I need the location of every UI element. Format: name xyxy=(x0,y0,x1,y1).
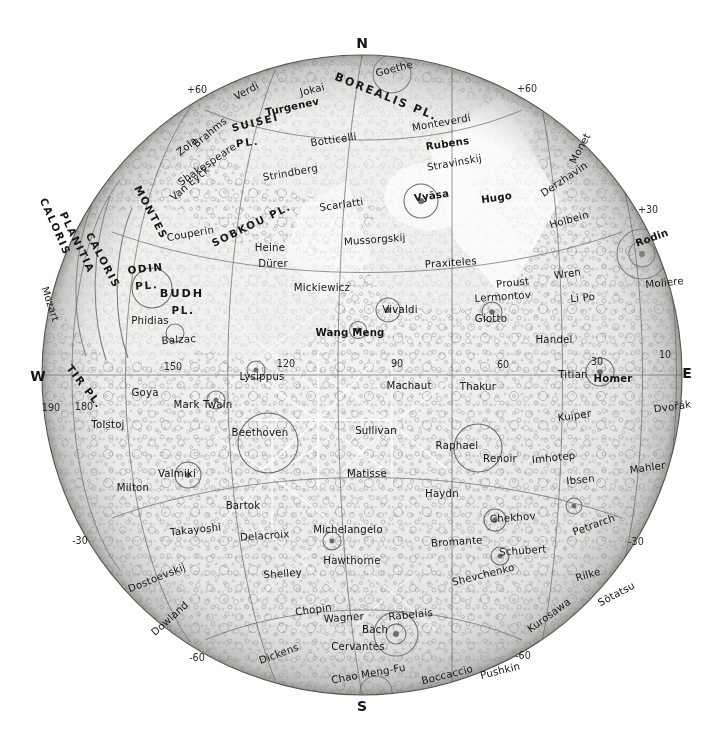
longitude-label: 190 xyxy=(42,402,60,413)
crater-label: Goya xyxy=(131,387,158,398)
mercury-map-figure: NSWE +60+60+30-30-30-60-60 1901801501209… xyxy=(0,0,715,750)
crater-label: Cervantes xyxy=(331,641,385,652)
latitude-label: +60 xyxy=(517,83,537,94)
crater-label: Michelangelo xyxy=(313,524,383,535)
latitude-label: -60 xyxy=(189,652,205,663)
crater-label: Machaut xyxy=(386,380,431,391)
region-label: BUDH xyxy=(160,287,204,300)
longitude-label: 120 xyxy=(277,358,295,369)
crater-label: Handel xyxy=(535,334,572,345)
crater-label: Haydn xyxy=(425,488,459,499)
longitude-label: 150 xyxy=(164,361,182,372)
latitude-label: -30 xyxy=(628,536,644,547)
crater-label: Titian xyxy=(557,369,587,380)
latitude-label: +60 xyxy=(187,84,207,95)
crater-label: Homer xyxy=(593,373,632,384)
longitude-label: 10 xyxy=(659,349,671,360)
crater-label: Beethoven xyxy=(232,427,289,438)
crater-label: Dürer xyxy=(258,258,288,269)
longitude-label: 60 xyxy=(497,359,509,370)
mercury-globe-svg: NSWE +60+60+30-30-30-60-60 1901801501209… xyxy=(0,0,715,750)
crater-label: Wang Meng xyxy=(315,327,384,338)
crater-label: Raphael xyxy=(436,440,479,451)
crater-label: Mickiewicz xyxy=(294,282,350,293)
crater-label: Milton xyxy=(117,482,149,493)
region-label: PL. xyxy=(172,304,195,316)
crater-label: Heine xyxy=(255,242,285,253)
region-label: PL. xyxy=(135,278,159,292)
crater-label: Sullivan xyxy=(355,425,397,436)
longitude-label: 90 xyxy=(391,358,403,369)
crater-label: Giotto xyxy=(475,313,507,324)
latitude-label: -30 xyxy=(72,535,88,546)
latitude-label: +30 xyxy=(638,204,658,215)
crater-label: Matisse xyxy=(347,468,387,479)
crater-label: Tolstoj xyxy=(90,419,124,430)
crater-label: Phidias xyxy=(131,315,169,326)
cardinal-label-east: E xyxy=(682,365,692,381)
latitude-label: -60 xyxy=(515,650,531,661)
cardinal-label-south: S xyxy=(357,698,367,714)
crater-label: Hawthorne xyxy=(323,555,380,566)
crater-label: Thakur xyxy=(459,381,497,392)
crater-label: Bartok xyxy=(226,500,261,511)
cardinal-label-north: N xyxy=(356,35,368,51)
crater-label: Valmiki xyxy=(158,468,196,479)
crater-label: Lysippus xyxy=(239,371,284,382)
longitude-label: 30 xyxy=(591,356,603,367)
crater-label: Mark Twain xyxy=(174,399,233,410)
crater-label: Vivaldi xyxy=(382,304,417,315)
cardinal-label-west: W xyxy=(30,368,45,384)
crater-label: Bach xyxy=(362,624,388,635)
crater-label: Renoir xyxy=(483,453,517,464)
